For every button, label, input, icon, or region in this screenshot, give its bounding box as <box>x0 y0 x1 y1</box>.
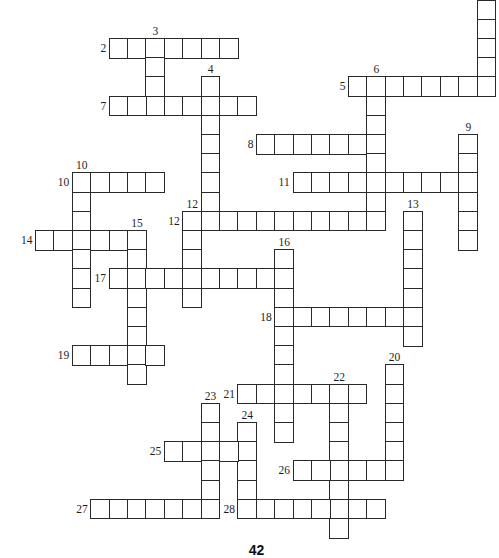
grid-cell[interactable] <box>145 96 165 117</box>
grid-cell[interactable] <box>90 345 110 366</box>
grid-cell[interactable] <box>237 460 257 481</box>
grid-cell[interactable] <box>127 345 147 366</box>
grid-cell[interactable] <box>72 345 92 366</box>
grid-cell[interactable] <box>348 307 368 328</box>
grid-cell[interactable] <box>311 384 331 405</box>
grid-cell[interactable] <box>53 230 73 251</box>
grid-cell[interactable] <box>477 57 497 78</box>
grid-cell[interactable] <box>403 230 423 251</box>
grid-cell[interactable] <box>182 499 202 520</box>
grid-cell[interactable] <box>403 307 423 328</box>
grid-cell[interactable] <box>366 499 386 520</box>
grid-cell[interactable] <box>366 211 386 232</box>
grid-cell[interactable] <box>366 172 386 193</box>
grid-cell[interactable] <box>201 172 221 193</box>
grid-cell[interactable] <box>458 153 478 174</box>
grid-cell[interactable] <box>237 96 257 117</box>
grid-cell[interactable] <box>256 499 276 520</box>
grid-cell[interactable] <box>256 134 276 155</box>
grid-cell[interactable] <box>385 307 405 328</box>
grid-cell[interactable] <box>385 384 405 405</box>
grid-cell[interactable] <box>90 499 110 520</box>
grid-cell[interactable] <box>385 76 405 97</box>
grid-cell[interactable] <box>219 441 239 462</box>
grid-cell[interactable] <box>145 345 165 366</box>
grid-cell[interactable] <box>440 172 460 193</box>
grid-cell[interactable] <box>458 230 478 251</box>
grid-cell[interactable] <box>403 268 423 289</box>
grid-cell[interactable] <box>201 211 221 232</box>
grid-cell[interactable] <box>127 172 147 193</box>
grid-cell[interactable] <box>458 211 478 232</box>
grid-cell[interactable] <box>458 192 478 213</box>
grid-cell[interactable] <box>145 172 165 193</box>
grid-cell[interactable] <box>311 307 331 328</box>
grid-cell[interactable] <box>145 268 165 289</box>
grid-cell[interactable] <box>256 268 276 289</box>
grid-cell[interactable] <box>237 499 257 520</box>
grid-cell[interactable] <box>201 96 221 117</box>
grid-cell[interactable] <box>348 499 368 520</box>
grid-cell[interactable] <box>182 211 202 232</box>
grid-cell[interactable] <box>237 441 257 462</box>
grid-cell[interactable] <box>72 172 92 193</box>
grid-cell[interactable] <box>329 403 349 424</box>
grid-cell[interactable] <box>72 288 92 309</box>
grid-cell[interactable] <box>127 96 147 117</box>
grid-cell[interactable] <box>274 307 294 328</box>
grid-cell[interactable] <box>329 422 349 443</box>
grid-cell[interactable] <box>201 480 221 501</box>
grid-cell[interactable] <box>219 96 239 117</box>
grid-cell[interactable] <box>348 460 368 481</box>
grid-cell[interactable] <box>109 96 129 117</box>
grid-cell[interactable] <box>145 499 165 520</box>
grid-cell[interactable] <box>72 230 92 251</box>
grid-cell[interactable] <box>329 384 349 405</box>
grid-cell[interactable] <box>329 480 349 501</box>
grid-cell[interactable] <box>385 172 405 193</box>
grid-cell[interactable] <box>385 403 405 424</box>
grid-cell[interactable] <box>164 38 184 59</box>
grid-cell[interactable] <box>366 115 386 136</box>
grid-cell[interactable] <box>127 268 147 289</box>
grid-cell[interactable] <box>127 307 147 328</box>
grid-cell[interactable] <box>182 288 202 309</box>
grid-cell[interactable] <box>329 518 349 539</box>
grid-cell[interactable] <box>403 288 423 309</box>
grid-cell[interactable] <box>329 307 349 328</box>
grid-cell[interactable] <box>458 134 478 155</box>
grid-cell[interactable] <box>293 307 313 328</box>
grid-cell[interactable] <box>293 384 313 405</box>
grid-cell[interactable] <box>164 96 184 117</box>
grid-cell[interactable] <box>274 422 294 443</box>
grid-cell[interactable] <box>329 499 349 520</box>
grid-cell[interactable] <box>182 441 202 462</box>
grid-cell[interactable] <box>274 249 294 270</box>
grid-cell[interactable] <box>293 134 313 155</box>
grid-cell[interactable] <box>182 38 202 59</box>
grid-cell[interactable] <box>348 76 368 97</box>
grid-cell[interactable] <box>201 268 221 289</box>
grid-cell[interactable] <box>127 364 147 385</box>
grid-cell[interactable] <box>311 172 331 193</box>
grid-cell[interactable] <box>274 326 294 347</box>
grid-cell[interactable] <box>72 268 92 289</box>
grid-cell[interactable] <box>477 38 497 59</box>
grid-cell[interactable] <box>35 230 55 251</box>
grid-cell[interactable] <box>127 230 147 251</box>
grid-cell[interactable] <box>348 134 368 155</box>
grid-cell[interactable] <box>201 422 221 443</box>
grid-cell[interactable] <box>274 345 294 366</box>
grid-cell[interactable] <box>403 172 423 193</box>
grid-cell[interactable] <box>237 422 257 443</box>
grid-cell[interactable] <box>201 153 221 174</box>
grid-cell[interactable] <box>164 499 184 520</box>
grid-cell[interactable] <box>274 288 294 309</box>
grid-cell[interactable] <box>458 76 478 97</box>
grid-cell[interactable] <box>385 422 405 443</box>
grid-cell[interactable] <box>293 460 313 481</box>
grid-cell[interactable] <box>274 499 294 520</box>
grid-cell[interactable] <box>440 76 460 97</box>
grid-cell[interactable] <box>256 384 276 405</box>
grid-cell[interactable] <box>385 441 405 462</box>
